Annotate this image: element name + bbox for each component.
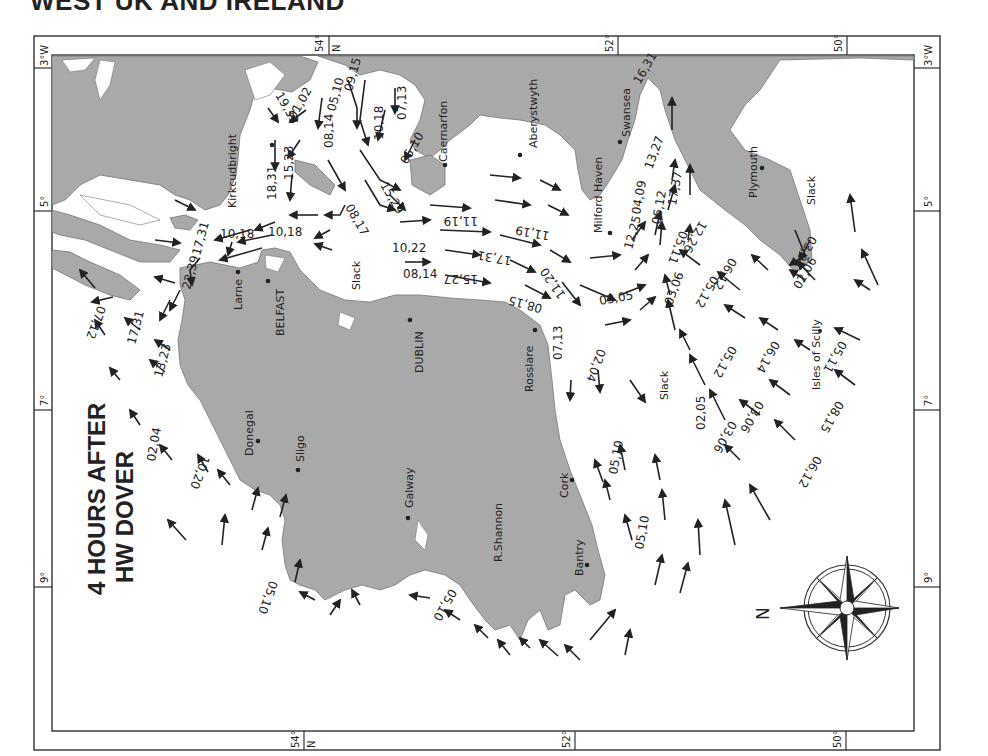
rate-label: 10,18 xyxy=(372,106,386,140)
place-larne: Larne xyxy=(232,279,245,310)
lon-label-7-left: 7° xyxy=(39,395,50,406)
rate-label: 07,13 xyxy=(551,326,565,360)
place-sligo: Sligo xyxy=(294,435,307,462)
lon-label-9-left: 9° xyxy=(39,572,50,583)
lon-label-7-right: 7° xyxy=(923,395,934,406)
lat-label-52-bottom: 52° xyxy=(561,730,572,748)
lat-label-50-bottom: 50° xyxy=(832,730,843,748)
tidal-stream-map: 54° N 52° 50° 54° N 52° 50° 3°W 5° 7° 9°… xyxy=(0,0,988,756)
compass-north-label: N xyxy=(753,607,773,620)
rate-label: 08,14 xyxy=(403,267,437,281)
rate-label: 10,18 xyxy=(268,225,302,239)
lon-label-5-right: 5° xyxy=(923,196,934,207)
panel-title-line2: HW DOVER xyxy=(111,451,138,583)
place-donegal: Donegal xyxy=(243,410,256,456)
lon-label-5-left: 5° xyxy=(39,196,50,207)
lat-suffix-n-top: N xyxy=(331,45,342,52)
lat-label-52-top: 52° xyxy=(604,34,615,52)
place-swansea: Swansea xyxy=(620,88,633,137)
slack-label: Slack xyxy=(350,260,363,290)
place-belfast: BELFAST xyxy=(274,289,287,336)
place-bantry: Bantry xyxy=(573,539,586,576)
lat-suffix-n-bottom: N xyxy=(306,741,317,748)
lon-label-3w-right: 3°W xyxy=(923,45,934,66)
rate-label: 15,27 xyxy=(444,272,478,286)
place-aberystwyth: Aberystwyth xyxy=(527,79,540,148)
rate-label: 08,14 xyxy=(322,114,336,148)
place-plymouth: Plymouth xyxy=(747,146,760,198)
place-dublin: DUBLIN xyxy=(413,331,426,373)
lon-label-9-right: 9° xyxy=(923,572,934,583)
rate-label: 18,31 xyxy=(265,166,279,200)
rate-label: 15,23 xyxy=(282,146,296,180)
lon-label-3w-left: 3°W xyxy=(39,45,50,66)
rate-label: 11,19 xyxy=(444,214,478,228)
lat-label-50-top: 50° xyxy=(833,34,844,52)
place-kirkcudbright: Kirkcudbright xyxy=(226,133,239,208)
slack-label: Slack xyxy=(805,175,818,205)
place-r-shannon: R.Shannon xyxy=(492,503,505,562)
place-galway: Galway xyxy=(403,467,416,508)
rate-label: 10,22 xyxy=(392,241,426,255)
rate-label: 07,13 xyxy=(395,86,409,120)
place-cork: Cork xyxy=(558,472,571,498)
place-rosslare: Rosslare xyxy=(523,346,536,392)
place-isles-of-scilly: Isles of Scilly xyxy=(810,319,823,390)
lat-label-54-top: 54° xyxy=(314,34,325,52)
lat-label-54-bottom: 54° xyxy=(290,730,301,748)
rate-label: 02,05 xyxy=(694,396,708,430)
place-milford-haven: Milford Haven xyxy=(592,157,605,233)
rate-label: 10,18 xyxy=(220,227,254,241)
panel-title-line1: 4 HOURS AFTER xyxy=(83,403,110,595)
slack-label: Slack xyxy=(658,370,671,400)
place-caernarfon: Caernarfon xyxy=(437,101,450,162)
